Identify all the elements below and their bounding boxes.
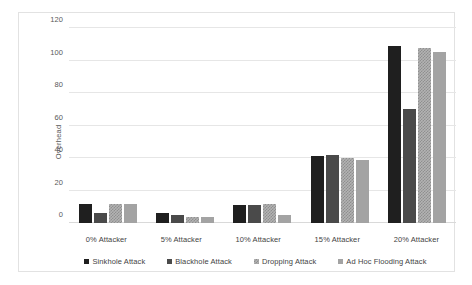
x-tick-label: 20% Attacker (394, 235, 439, 244)
legend-swatch-icon (167, 259, 172, 264)
chart-frame: Overhead 020406080100120 0% Attacker5% A… (18, 12, 455, 272)
bar[interactable] (156, 213, 169, 223)
y-tick-label: 60 (54, 112, 63, 121)
bar[interactable] (326, 155, 339, 223)
legend-label: Sinkhole Attack (92, 257, 145, 266)
bar[interactable] (109, 204, 122, 224)
bar-group (156, 28, 214, 223)
x-tick-label: 10% Attacker (236, 235, 281, 244)
legend-item[interactable]: Sinkhole Attack (84, 257, 145, 266)
bar[interactable] (263, 204, 276, 224)
y-tick-label: 120 (50, 15, 63, 24)
legend-label: Blackhole Attack (175, 257, 232, 266)
bar-group (79, 28, 137, 223)
bar[interactable] (278, 215, 291, 223)
bar[interactable] (356, 160, 369, 223)
legend-item[interactable]: Blackhole Attack (167, 257, 232, 266)
legend-label: Ad Hoc Flooding Attack (346, 257, 426, 266)
bar[interactable] (79, 204, 92, 224)
bar[interactable] (388, 46, 401, 223)
x-tick-label: 0% Attacker (86, 235, 127, 244)
y-axis-title: Overhead (54, 125, 63, 160)
bar[interactable] (94, 213, 107, 223)
bar[interactable] (186, 217, 199, 224)
bar-group (233, 28, 291, 223)
bar[interactable] (311, 156, 324, 223)
legend-swatch-icon (338, 259, 343, 264)
bar[interactable] (201, 217, 214, 224)
legend-item[interactable]: Ad Hoc Flooding Attack (338, 257, 426, 266)
plot-area: 020406080100120 (69, 28, 456, 223)
y-tick-label: 20 (54, 177, 63, 186)
legend-swatch-icon (254, 259, 259, 264)
x-axis-labels: 0% Attacker5% Attacker10% Attacker15% At… (69, 235, 456, 244)
bar[interactable] (248, 205, 261, 223)
y-tick-label: 80 (54, 80, 63, 89)
chart-figure: Overhead 020406080100120 0% Attacker5% A… (0, 0, 472, 285)
bar-group (311, 28, 369, 223)
bar[interactable] (418, 48, 431, 224)
bar[interactable] (124, 204, 137, 224)
bar[interactable] (403, 109, 416, 223)
legend-swatch-icon (84, 259, 89, 264)
chart-legend: Sinkhole AttackBlackhole AttackDropping … (37, 257, 472, 266)
legend-item[interactable]: Dropping Attack (254, 257, 316, 266)
x-tick-label: 15% Attacker (315, 235, 360, 244)
bar[interactable] (341, 158, 354, 223)
y-tick-label: 0 (59, 210, 63, 219)
y-tick-label: 100 (50, 47, 63, 56)
bar[interactable] (171, 215, 184, 223)
bar-group (388, 28, 446, 223)
bar-groups (69, 28, 456, 223)
x-tick-label: 5% Attacker (161, 235, 202, 244)
bar[interactable] (233, 205, 246, 223)
legend-label: Dropping Attack (262, 257, 316, 266)
y-tick-label: 40 (54, 145, 63, 154)
bar[interactable] (433, 52, 446, 223)
